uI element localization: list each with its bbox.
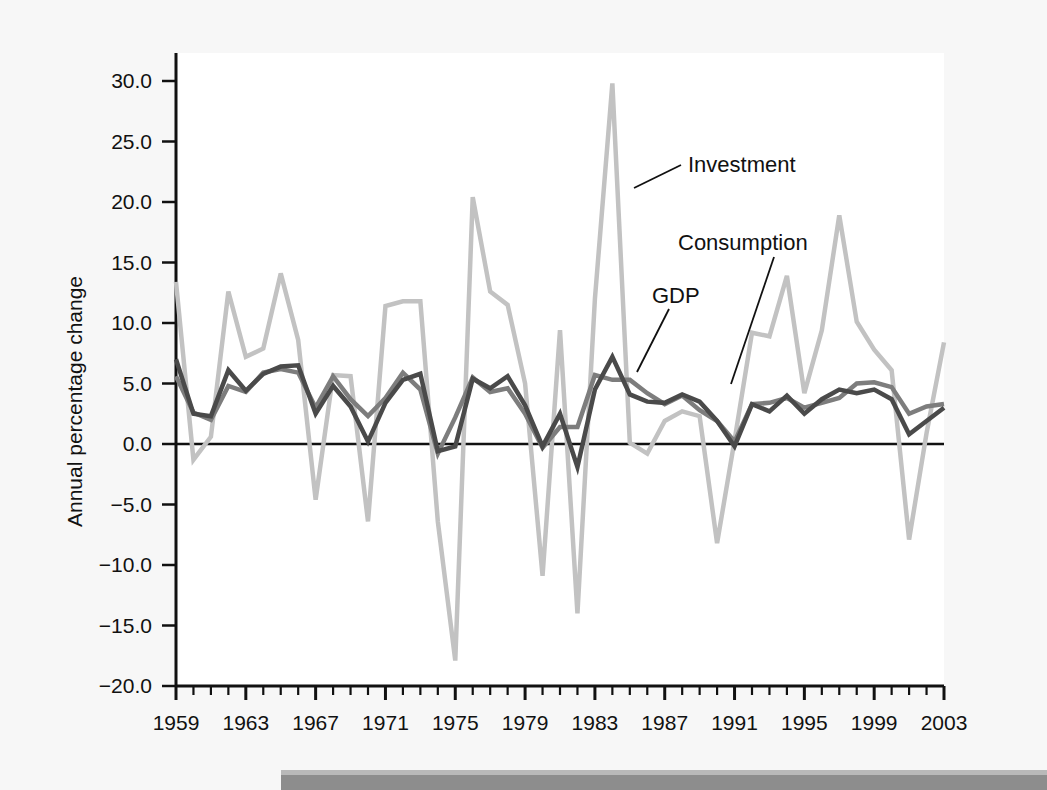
y-tick-label: −20.0 <box>99 674 152 697</box>
y-tick-group: 30.025.020.015.010.05.00.0−5.0−10.0−15.0… <box>99 69 176 697</box>
x-tick-label: 2003 <box>921 711 968 734</box>
x-tick-label: 1959 <box>153 711 200 734</box>
y-tick-label: 5.0 <box>123 372 152 395</box>
x-tick-label: 1967 <box>292 711 339 734</box>
x-tick-label: 1991 <box>711 711 758 734</box>
y-tick-label: 25.0 <box>111 130 152 153</box>
annotation-label-consumption: Consumption <box>678 230 808 255</box>
gdp-leader-line <box>637 309 669 372</box>
x-tick-label: 1963 <box>222 711 269 734</box>
x-tick-label: 1987 <box>641 711 688 734</box>
line-chart: 30.025.020.015.010.05.00.0−5.0−10.0−15.0… <box>0 0 1047 790</box>
y-tick-label: 15.0 <box>111 251 152 274</box>
consumption-leader-line <box>731 257 774 384</box>
y-tick-label: −5.0 <box>111 493 152 516</box>
annotation-label-investment: Investment <box>688 152 796 177</box>
y-tick-label: 20.0 <box>111 190 152 213</box>
x-tick-label: 1975 <box>432 711 479 734</box>
x-tick-label: 1979 <box>502 711 549 734</box>
y-tick-label: −10.0 <box>99 553 152 576</box>
figure-page: 30.025.020.015.010.05.00.0−5.0−10.0−15.0… <box>0 0 1047 790</box>
x-tick-label: 1983 <box>572 711 619 734</box>
x-tick-label: 1971 <box>362 711 409 734</box>
y-tick-label: 0.0 <box>123 432 152 455</box>
y-axis-title: Annual percentage change <box>63 276 86 527</box>
annotation-label-gdp: GDP <box>652 283 700 308</box>
y-tick-label: 30.0 <box>111 69 152 92</box>
investment-leader-line <box>634 165 681 188</box>
y-tick-label: 10.0 <box>111 311 152 334</box>
x-tick-label: 1995 <box>781 711 828 734</box>
x-tick-group: 1959196319671971197519791983198719911995… <box>153 686 968 734</box>
y-tick-label: −15.0 <box>99 614 152 637</box>
x-tick-label: 1999 <box>851 711 898 734</box>
